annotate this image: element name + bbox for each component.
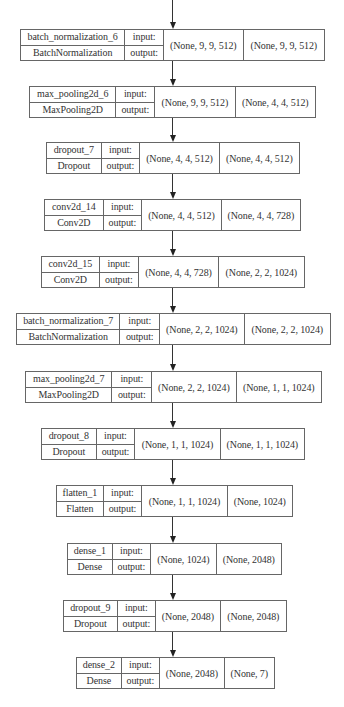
layer-class: Dropout bbox=[64, 617, 117, 632]
input-shape-column: (None, 2048) bbox=[159, 658, 223, 688]
output-shape: (None, 4, 4, 512) bbox=[220, 143, 299, 173]
input-shape: (None, 9, 9, 512) bbox=[164, 30, 242, 60]
input-label: input: bbox=[113, 544, 151, 560]
input-shape: (None, 1024) bbox=[151, 544, 215, 574]
input-label: input: bbox=[118, 601, 156, 617]
output-label: output: bbox=[122, 674, 160, 689]
input-shape-column: (None, 2, 2, 1024) bbox=[151, 372, 235, 402]
layer-name-column: conv2d_14 Conv2D bbox=[45, 200, 103, 230]
layer-name-column: dropout_9 Dropout bbox=[64, 601, 117, 631]
arrow-down-icon bbox=[170, 79, 176, 86]
layer-name: max_pooling2d_6 bbox=[30, 87, 115, 103]
io-label-column: input: output: bbox=[121, 658, 160, 688]
layer-name: dense_2 bbox=[77, 658, 121, 674]
output-shape: (None, 1, 1, 1024) bbox=[237, 372, 321, 402]
io-label-column: input: output: bbox=[101, 143, 140, 173]
output-shape: (None, 7) bbox=[225, 658, 274, 688]
layer-name-column: dense_1 Dense bbox=[68, 544, 112, 574]
layer-name-column: batch_normalization_6 BatchNormalization bbox=[21, 30, 124, 60]
input-shape-column: (None, 1024) bbox=[150, 544, 215, 574]
output-shape-column: (None, 4, 4, 512) bbox=[219, 143, 299, 173]
edge-line bbox=[172, 118, 173, 135]
layer-class: Dense bbox=[68, 560, 112, 575]
arrow-down-icon bbox=[170, 478, 176, 485]
input-shape-column: (None, 2048) bbox=[155, 601, 219, 631]
io-label-column: input: output: bbox=[103, 486, 142, 516]
layer-class: BatchNormalization bbox=[17, 330, 119, 345]
output-label: output: bbox=[113, 560, 151, 575]
layer-node-dropout-9: dropout_9 Dropout input: output: (None, … bbox=[63, 600, 287, 632]
io-label-column: input: output: bbox=[111, 372, 151, 402]
output-label: output: bbox=[125, 46, 163, 61]
output-shape-column: (None, 7) bbox=[224, 658, 274, 688]
io-label-column: input: output: bbox=[124, 30, 163, 60]
input-shape: (None, 9, 9, 512) bbox=[155, 87, 234, 117]
output-label: output: bbox=[100, 273, 139, 288]
input-shape: (None, 4, 4, 512) bbox=[140, 143, 218, 173]
input-label: input: bbox=[97, 429, 135, 445]
input-label: input: bbox=[116, 87, 154, 103]
output-shape: (None, 2048) bbox=[221, 601, 286, 631]
input-shape: (None, 2048) bbox=[160, 658, 223, 688]
layer-name-column: max_pooling2d_6 MaxPooling2D bbox=[30, 87, 115, 117]
input-shape-column: (None, 2, 2, 1024) bbox=[159, 314, 243, 344]
output-label: output: bbox=[120, 330, 159, 345]
layer-name-column: max_pooling2d_7 MaxPooling2D bbox=[26, 372, 111, 402]
edge-line bbox=[172, 403, 173, 421]
layer-class: BatchNormalization bbox=[21, 46, 124, 61]
arrow-down-icon bbox=[170, 364, 176, 371]
output-shape: (None, 2, 2, 1024) bbox=[245, 314, 330, 344]
layer-class: Dropout bbox=[47, 159, 101, 174]
layer-node-batch-normalization-6: batch_normalization_6 BatchNormalization… bbox=[20, 29, 325, 61]
io-label-column: input: output: bbox=[99, 257, 139, 287]
input-shape-column: (None, 9, 9, 512) bbox=[154, 87, 234, 117]
layer-name: conv2d_14 bbox=[45, 200, 103, 216]
layer-name-column: flatten_1 Flatten bbox=[57, 486, 103, 516]
output-label: output: bbox=[104, 502, 142, 517]
output-label: output: bbox=[116, 103, 154, 118]
edge-line bbox=[172, 61, 173, 79]
layer-node-conv2d-14: conv2d_14 Conv2D input: output: (None, 4… bbox=[44, 199, 301, 231]
layer-class: MaxPooling2D bbox=[30, 103, 115, 118]
edge-line bbox=[172, 460, 173, 478]
output-shape: (None, 4, 4, 728) bbox=[222, 200, 300, 230]
output-shape: (None, 1024) bbox=[228, 486, 292, 516]
arrow-down-icon bbox=[170, 192, 176, 199]
io-label-column: input: output: bbox=[96, 429, 135, 459]
layer-node-dropout-7: dropout_7 Dropout input: output: (None, … bbox=[46, 142, 300, 174]
input-shape-column: (None, 9, 9, 512) bbox=[163, 30, 242, 60]
edge-line bbox=[172, 345, 173, 364]
arrow-down-icon bbox=[170, 306, 176, 313]
layer-class: Conv2D bbox=[42, 273, 99, 288]
edge-line bbox=[172, 517, 173, 536]
io-label-column: input: output: bbox=[117, 601, 156, 631]
layer-node-conv2d-15: conv2d_15 Conv2D input: output: (None, 4… bbox=[41, 256, 305, 288]
layer-name: dropout_8 bbox=[42, 429, 96, 445]
io-label-column: input: output: bbox=[103, 200, 142, 230]
edge-line bbox=[172, 174, 173, 192]
input-shape: (None, 2, 2, 1024) bbox=[152, 372, 235, 402]
layer-name-column: conv2d_15 Conv2D bbox=[42, 257, 99, 287]
input-shape: (None, 1, 1, 1024) bbox=[142, 486, 226, 516]
output-label: output: bbox=[112, 388, 151, 403]
input-shape-column: (None, 1, 1, 1024) bbox=[134, 429, 219, 459]
output-label: output: bbox=[97, 445, 135, 460]
output-shape-column: (None, 1, 1, 1024) bbox=[220, 429, 304, 459]
layer-class: Conv2D bbox=[45, 216, 103, 231]
layer-name: dense_1 bbox=[68, 544, 112, 560]
layer-class: MaxPooling2D bbox=[26, 388, 111, 403]
input-label: input: bbox=[102, 143, 140, 159]
layer-class: Dense bbox=[77, 674, 121, 689]
layer-class: Dropout bbox=[42, 445, 96, 460]
arrow-down-icon bbox=[170, 536, 176, 543]
layer-name: batch_normalization_7 bbox=[17, 314, 119, 330]
output-shape-column: (None, 4, 4, 728) bbox=[221, 200, 300, 230]
arrow-down-icon bbox=[170, 135, 176, 142]
model-architecture-diagram: batch_normalization_6 BatchNormalization… bbox=[0, 0, 344, 707]
output-shape: (None, 9, 9, 512) bbox=[244, 30, 324, 60]
input-shape-column: (None, 1, 1, 1024) bbox=[141, 486, 226, 516]
output-label: output: bbox=[102, 159, 140, 174]
layer-name: conv2d_15 bbox=[42, 257, 99, 273]
output-shape-column: (None, 2, 2, 1024) bbox=[244, 314, 330, 344]
input-shape: (None, 4, 4, 512) bbox=[142, 200, 220, 230]
